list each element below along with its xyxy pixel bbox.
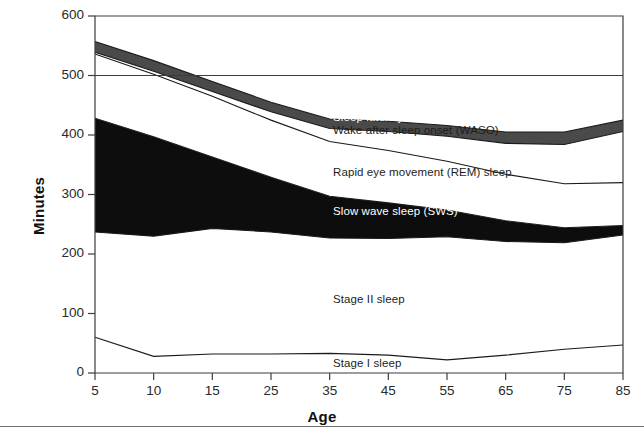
x-tick-label-45: 45: [368, 383, 408, 398]
x-tick-label-25: 25: [251, 383, 291, 398]
x-tick-label-10: 10: [134, 383, 174, 398]
series-label-sleep-latency: Sleep latency: [333, 111, 403, 123]
x-tick-label-5: 5: [75, 383, 115, 398]
series-label-sws: Slow wave sleep (SWS): [333, 205, 458, 217]
x-tick-label-85: 85: [603, 383, 643, 398]
stacked-area-chart-canvas: [0, 0, 644, 437]
y-tick-label-100: 100: [40, 305, 84, 320]
y-tick-label-200: 200: [40, 245, 84, 260]
y-tick-label-300: 300: [40, 186, 84, 201]
x-tick-label-35: 35: [310, 383, 350, 398]
x-tick-label-65: 65: [486, 383, 526, 398]
y-tick-label-600: 600: [40, 7, 84, 22]
figure-bottom-rule: [0, 426, 644, 427]
y-tick-label-0: 0: [40, 364, 84, 379]
x-axis-title: Age: [0, 408, 644, 425]
series-label-rem: Rapid eye movement (REM) sleep: [333, 166, 512, 178]
y-tick-label-500: 500: [40, 67, 84, 82]
y-tick-label-400: 400: [40, 126, 84, 141]
series-label-waso: Wake after sleep onset (WASO): [333, 124, 499, 136]
series-label-stage2: Stage II sleep: [333, 293, 405, 305]
x-tick-label-75: 75: [544, 383, 584, 398]
series-label-stage1: Stage I sleep: [333, 357, 401, 369]
x-tick-label-15: 15: [192, 383, 232, 398]
sleep-architecture-figure: Minutes Age 0100200300400500600 51015253…: [0, 0, 644, 437]
x-tick-label-55: 55: [427, 383, 467, 398]
